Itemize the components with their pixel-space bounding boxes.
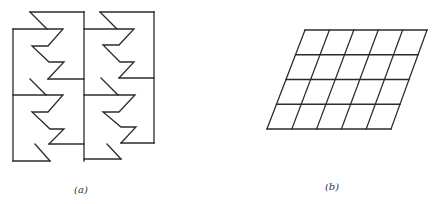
tile-edge: [107, 144, 121, 159]
tile-edge: [35, 144, 50, 161]
panel-b-caption: (b): [325, 181, 339, 192]
tile-edge: [30, 12, 64, 79]
tile-edge: [30, 79, 64, 144]
panel-b-label: (b): [325, 181, 339, 192]
tile-edge: [100, 12, 134, 78]
panel-a-caption: (a): [74, 184, 88, 195]
panel-a-zigzag-tessellation: [13, 12, 154, 161]
tile-edge: [101, 78, 136, 143]
panel-b-sheared-grid: [267, 30, 427, 129]
figure-canvas: [0, 0, 432, 204]
panel-a-label: (a): [74, 184, 88, 195]
